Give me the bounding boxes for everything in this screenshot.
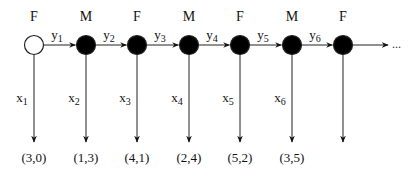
filled-node-5 xyxy=(231,36,250,55)
filled-node-2 xyxy=(77,36,96,55)
chain-diagram: F M F M F M F y1 y2 y3 y4 y5 y6 ... x1 x… xyxy=(0,0,409,173)
filled-node-6 xyxy=(283,36,302,55)
edge-label-y5: y5 xyxy=(257,28,269,41)
coord-label-2: (1,3) xyxy=(74,151,99,164)
diagram-canvas xyxy=(0,0,409,173)
coord-label-1: (3,0) xyxy=(22,151,47,164)
edge-label-y3: y3 xyxy=(154,28,166,41)
coord-label-4: (2,4) xyxy=(177,151,202,164)
coord-label-5: (5,2) xyxy=(228,151,253,164)
sex-label-7: F xyxy=(339,10,347,24)
drops-layer xyxy=(34,55,343,143)
filled-node-7 xyxy=(334,36,353,55)
sex-label-6: M xyxy=(286,10,298,24)
sex-label-5: F xyxy=(236,10,244,24)
coord-label-3: (4,1) xyxy=(125,151,150,164)
open-node-1 xyxy=(25,36,44,55)
sex-label-4: M xyxy=(183,10,195,24)
sex-label-1: F xyxy=(30,10,38,24)
coord-label-6: (3,5) xyxy=(280,151,305,164)
filled-node-4 xyxy=(180,36,199,55)
edge-label-y2: y2 xyxy=(103,28,115,41)
x-label-2: x2 xyxy=(68,91,80,104)
x-label-3: x3 xyxy=(119,91,131,104)
sex-label-3: F xyxy=(133,10,141,24)
continuation-ellipsis: ... xyxy=(392,38,401,50)
filled-node-3 xyxy=(128,36,147,55)
x-label-4: x4 xyxy=(171,91,183,104)
edge-label-y4: y4 xyxy=(206,28,218,41)
edge-label-y6: y6 xyxy=(309,28,321,41)
sex-label-2: M xyxy=(80,10,92,24)
edge-label-y1: y1 xyxy=(51,28,63,41)
x-label-1: x1 xyxy=(16,91,28,104)
x-label-6: x6 xyxy=(274,91,286,104)
x-label-5: x5 xyxy=(222,91,234,104)
